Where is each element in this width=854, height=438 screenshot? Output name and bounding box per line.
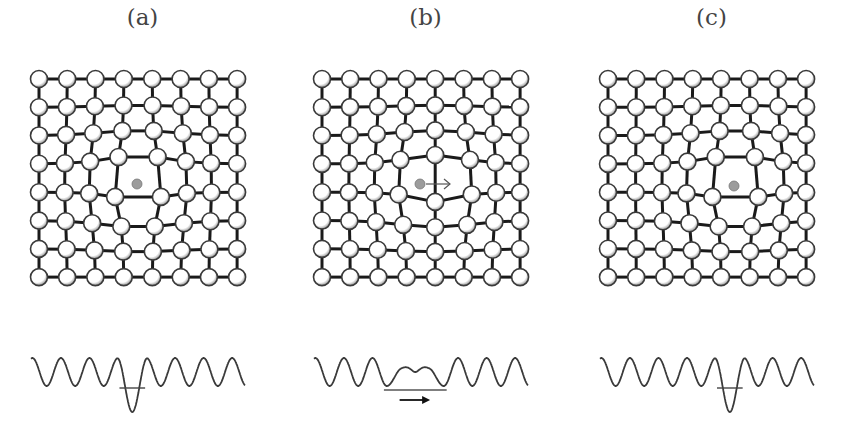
lattice-atom xyxy=(600,240,617,257)
lattice-atom xyxy=(229,184,246,201)
lattice-atom xyxy=(395,216,412,233)
lattice-atom xyxy=(31,184,48,201)
lattice-atom xyxy=(229,240,246,257)
lattice-atom xyxy=(314,127,331,144)
lattice-atom xyxy=(392,151,409,168)
lattice-atom xyxy=(628,99,645,116)
lattice-atom xyxy=(115,97,132,114)
lattice-atom xyxy=(488,184,505,201)
lattice-atom xyxy=(798,184,815,201)
lattice-atom xyxy=(512,212,529,229)
lattice-atom xyxy=(600,99,617,116)
lattice-atom xyxy=(483,71,500,88)
lattice-atom xyxy=(456,97,473,114)
lattice-atom xyxy=(741,97,758,114)
lattice-atom xyxy=(229,99,246,116)
lattice-diagram-c xyxy=(569,0,854,438)
lattice-atom xyxy=(485,126,502,143)
lattice-atom xyxy=(367,214,384,231)
lattice-atom xyxy=(56,184,73,201)
lattice-atom xyxy=(798,98,815,115)
lattice-atom xyxy=(484,98,501,115)
lattice-atom xyxy=(743,122,760,139)
lattice-atom xyxy=(341,155,358,172)
lattice-atom xyxy=(144,269,161,286)
lattice-atom xyxy=(627,184,644,201)
lattice-atom xyxy=(56,155,73,172)
lattice-atom xyxy=(145,122,162,139)
lattice-atom xyxy=(201,126,218,143)
lattice-atom xyxy=(484,269,501,286)
lattice-atom xyxy=(342,269,359,286)
lattice-atom xyxy=(600,155,617,172)
lattice-atom xyxy=(773,215,790,232)
lattice-atom xyxy=(31,99,48,116)
lattice-atom xyxy=(427,147,444,164)
lattice-atom xyxy=(144,71,161,88)
lattice-atom xyxy=(798,155,815,172)
lattice-atom xyxy=(340,184,357,201)
lattice-atom xyxy=(86,98,103,115)
lattice-atom xyxy=(229,71,246,88)
lattice-atom xyxy=(512,241,529,258)
lattice-atom xyxy=(512,269,529,286)
lattice-atom xyxy=(746,149,763,166)
lattice-atom xyxy=(114,122,131,139)
lattice-atom xyxy=(656,71,673,88)
lattice-atom xyxy=(396,124,413,141)
lattice-atom xyxy=(512,127,529,144)
lattice-atom xyxy=(484,241,501,258)
lattice-atom xyxy=(173,98,190,115)
lattice-atom xyxy=(656,269,673,286)
lattice-atom xyxy=(390,186,407,203)
lattice-atom xyxy=(178,185,195,202)
lattice-atom xyxy=(201,241,218,258)
lattice-atom xyxy=(341,212,358,229)
lattice-atom xyxy=(512,184,529,201)
lattice-atom xyxy=(368,126,385,143)
lattice-atom xyxy=(713,269,730,286)
lattice-atom xyxy=(750,188,767,205)
panel-c: (c) xyxy=(569,0,854,438)
lattice-atom xyxy=(770,98,787,115)
energy-landscape-curve xyxy=(600,358,814,412)
lattice-atom xyxy=(370,98,387,115)
lattice-atom xyxy=(770,269,787,286)
lattice-atom xyxy=(341,127,358,144)
lattice-atom xyxy=(798,269,815,286)
lattice-atom xyxy=(628,269,645,286)
lattice-atom xyxy=(512,155,529,172)
lattice-atom xyxy=(59,71,76,88)
lattice-atom xyxy=(172,269,189,286)
lattice-atom xyxy=(710,218,727,235)
lattice-atom xyxy=(600,269,617,286)
lattice-atom xyxy=(85,125,102,142)
lattice-atom xyxy=(229,127,246,144)
lattice-atom xyxy=(772,125,789,142)
lattice-atom xyxy=(769,71,786,88)
lattice-atom xyxy=(679,153,696,170)
lattice-atom xyxy=(776,185,793,202)
lattice-atom xyxy=(31,155,48,172)
lattice-atom xyxy=(31,212,48,229)
lattice-atom xyxy=(600,212,617,229)
lattice-atom xyxy=(798,213,815,230)
lattice-atom xyxy=(314,184,331,201)
lattice-atom xyxy=(397,243,414,260)
energy-landscape-curve xyxy=(314,358,528,386)
lattice-atom xyxy=(314,212,331,229)
panel-b: (b) xyxy=(283,0,568,438)
interstitial-atom xyxy=(415,179,425,189)
lattice-atom xyxy=(653,184,670,201)
lattice-atom xyxy=(628,71,645,88)
lattice-atom xyxy=(741,269,758,286)
lattice-atom xyxy=(201,98,218,115)
lattice-atom xyxy=(152,188,169,205)
lattice-atom xyxy=(342,99,359,116)
lattice-atom xyxy=(486,214,503,231)
lattice-atom xyxy=(175,215,192,232)
lattice-atom xyxy=(627,127,644,144)
lattice-atom xyxy=(427,193,444,210)
lattice-atom xyxy=(173,242,190,259)
lattice-atom xyxy=(107,188,124,205)
